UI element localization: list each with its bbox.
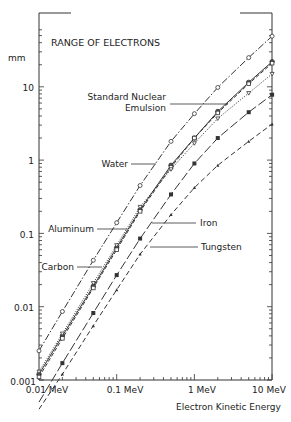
data-point-marker — [270, 34, 274, 38]
label-emulsion-line1: Standard Nuclear — [88, 92, 167, 102]
data-point-marker — [169, 192, 173, 196]
label-water: Water — [101, 159, 128, 169]
data-point-marker — [37, 375, 41, 379]
data-point-marker — [216, 85, 220, 89]
data-point-marker — [193, 136, 197, 140]
data-point-marker — [216, 117, 220, 121]
data-point-marker — [270, 61, 274, 65]
data-point-marker — [271, 122, 274, 125]
label-carbon: Carbon — [42, 262, 74, 272]
data-point-marker — [60, 361, 64, 365]
y-tick-label-0.1: 0.1 — [20, 230, 34, 240]
label-aluminum: Aluminum — [48, 224, 94, 234]
label-tungsten: Tungsten — [200, 242, 242, 252]
series-water — [37, 34, 274, 353]
y-tick-label-10: 10 — [23, 83, 35, 93]
data-point-marker — [115, 221, 119, 225]
data-point-marker — [61, 337, 65, 341]
chart-title: RANGE OF ELECTRONS — [51, 37, 160, 48]
y-tick-label-0.01: 0.01 — [14, 303, 34, 313]
data-point-marker — [115, 273, 119, 277]
data-point-marker — [138, 210, 142, 214]
axis-ticks — [39, 30, 272, 380]
data-point-marker — [270, 72, 274, 76]
data-point-marker — [192, 161, 196, 165]
data-point-marker — [216, 111, 220, 115]
data-curves — [37, 34, 274, 409]
data-point-marker — [247, 82, 251, 86]
data-point-marker — [60, 310, 64, 314]
x-tick-label-0.01: 0.01 MeV — [26, 385, 69, 395]
data-point-marker — [115, 248, 119, 252]
y-tick-label-1: 1 — [28, 156, 34, 166]
data-point-marker — [247, 110, 251, 114]
x-axis-title: Electron Kinetic Energy — [176, 402, 281, 412]
data-point-marker — [192, 142, 196, 146]
x-tick-label-0.1: 0.1 MeV — [107, 385, 144, 395]
data-point-marker — [216, 136, 220, 140]
data-point-marker — [169, 168, 173, 172]
data-point-marker — [247, 140, 250, 143]
data-point-marker — [91, 311, 95, 315]
data-point-marker — [91, 258, 95, 262]
data-point-marker — [138, 184, 142, 188]
x-tick-label-10: 10 MeV — [252, 385, 287, 395]
y-unit-label: mm — [8, 53, 26, 63]
label-emulsion-line2: Emulsion — [125, 103, 166, 113]
x-tick-label-1: 1 MeV — [188, 385, 217, 395]
data-point-marker — [247, 56, 251, 60]
label-iron: Iron — [200, 218, 217, 228]
data-point-marker — [192, 112, 196, 116]
plot-axes — [39, 13, 272, 380]
data-point-marker — [37, 349, 41, 353]
data-point-marker — [270, 93, 274, 97]
data-point-marker — [247, 92, 251, 96]
data-point-marker — [138, 237, 142, 241]
data-point-marker — [169, 139, 173, 143]
range-of-electrons-chart: RANGE OF ELECTRONS mm 10 1 0.1 0.01 0.00… — [0, 0, 291, 422]
data-point-marker — [92, 286, 96, 290]
series-tungsten — [39, 122, 274, 409]
data-point-marker — [92, 324, 95, 327]
curve-line — [39, 36, 272, 351]
